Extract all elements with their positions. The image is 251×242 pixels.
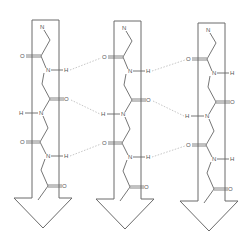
strand-1: [14, 20, 72, 228]
strand-3: [180, 23, 238, 231]
strand-2: [96, 21, 154, 229]
diagram-svg: N O N H O N H O N H O: [0, 0, 251, 242]
beta-sheet-diagram: N O N H O N H O N H O: [0, 0, 251, 242]
